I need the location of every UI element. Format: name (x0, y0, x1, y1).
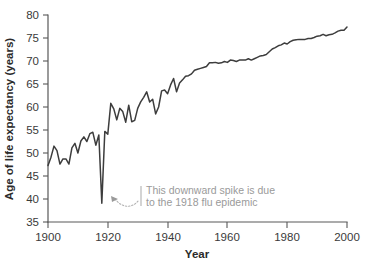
x-tick-label-1940: 1940 (155, 231, 181, 243)
x-axis-title: Year (185, 248, 210, 260)
life-expectancy-series (48, 27, 347, 203)
annotation-leader (111, 186, 141, 206)
y-tick-label-45: 45 (26, 170, 39, 182)
y-tick-label-35: 35 (26, 216, 39, 228)
y-tick-label-80: 80 (26, 9, 39, 21)
y-tick-label-70: 70 (26, 55, 39, 67)
x-axis-ticks: 1900 1920 1940 1960 1980 2000 (35, 222, 360, 243)
x-tick-label-1960: 1960 (214, 231, 240, 243)
annotation-leader-curve (115, 199, 139, 206)
annotation-line-1: This downward spike is due (146, 184, 275, 196)
x-tick-label-1920: 1920 (95, 231, 121, 243)
y-axis-ticks: 80 75 70 65 60 55 50 45 40 35 (26, 9, 48, 228)
x-tick-label-2000: 2000 (334, 231, 360, 243)
y-tick-label-75: 75 (26, 32, 39, 44)
annotation-line-2: to the 1918 flu epidemic (146, 196, 258, 208)
y-tick-label-50: 50 (26, 147, 39, 159)
chart-figure: 80 75 70 65 60 55 50 45 40 35 1900 (0, 0, 372, 268)
life-expectancy-line-chart: 80 75 70 65 60 55 50 45 40 35 1900 (0, 0, 372, 268)
y-axis-title: Age of life expectancy (years) (3, 38, 15, 201)
y-tick-label-40: 40 (26, 193, 39, 205)
y-tick-label-55: 55 (26, 124, 39, 136)
x-tick-label-1980: 1980 (274, 231, 300, 243)
y-tick-label-60: 60 (26, 101, 39, 113)
x-tick-label-1900: 1900 (35, 231, 61, 243)
y-tick-label-65: 65 (26, 78, 39, 90)
